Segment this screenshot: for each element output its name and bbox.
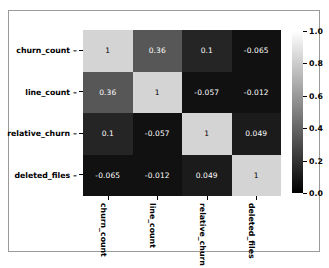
heatmap-cell-value: 0.36	[149, 47, 166, 55]
colorbar-tick	[303, 128, 307, 129]
y-axis-label-text: deleted_files	[14, 171, 70, 180]
y-axis-label-text: churn_count	[16, 46, 70, 55]
heatmap-cell-value: 0.1	[201, 47, 213, 55]
heatmap-cell: -0.057	[182, 72, 232, 114]
x-axis-label-slot-2: relative_churn	[182, 196, 232, 268]
colorbar-tick-label-0: 0.0	[309, 189, 323, 198]
x-axis-label-3: deleted_files	[247, 203, 256, 259]
x-axis-labels: churn_count line_count relative_churn de…	[83, 196, 281, 268]
heatmap-cell-value: -0.012	[244, 89, 269, 97]
heatmap-cell: -0.057	[133, 113, 183, 155]
colorbar-tick-label-5: 1.0	[309, 27, 323, 36]
figure-frame: churn_count– line_count– relative_churn–…	[8, 10, 320, 252]
correlation-heatmap: 1 0.36 0.1 -0.065 0.36 1 -0.057 -0.012 0…	[83, 30, 281, 196]
x-axis-label-0: churn_count	[99, 203, 108, 257]
y-axis-label-text: line_count	[25, 88, 70, 97]
heatmap-cell-value: 1	[155, 89, 160, 97]
heatmap-cell-value: 1	[204, 130, 209, 138]
heatmap-cell-value: -0.065	[244, 47, 269, 55]
heatmap-cell: 0.049	[232, 113, 282, 155]
y-axis-label-1: line_count–	[9, 72, 77, 114]
heatmap-cell-value: 1	[105, 47, 110, 55]
heatmap-cell: -0.012	[133, 155, 183, 197]
heatmap-cell-value: -0.057	[194, 89, 219, 97]
heatmap-cell: 0.1	[83, 113, 133, 155]
x-axis-tick	[256, 196, 257, 200]
heatmap-cell: -0.065	[232, 30, 282, 72]
colorbar-tick	[303, 96, 307, 97]
y-axis-label-3: deleted_files–	[9, 155, 77, 197]
heatmap-cell: 1	[83, 30, 133, 72]
colorbar-tick-label-1: 0.2	[309, 156, 323, 165]
heatmap-cell-value: 0.049	[245, 130, 267, 138]
heatmap-cell-value: 0.049	[196, 172, 218, 180]
heatmap-cell-value: 0.36	[99, 89, 116, 97]
colorbar: 0.0 0.2 0.4 0.6 0.8 1.0	[292, 31, 303, 193]
x-axis-label-2: relative_churn	[198, 203, 207, 266]
heatmap-cell: 0.1	[182, 30, 232, 72]
heatmap-cell: -0.065	[83, 155, 133, 197]
heatmap-cell: 0.049	[182, 155, 232, 197]
heatmap-cell-value: -0.057	[145, 130, 170, 138]
colorbar-tick	[303, 31, 307, 32]
colorbar-tick-label-4: 0.8	[309, 59, 323, 68]
heatmap-cell-value: 1	[254, 172, 259, 180]
x-axis-label-slot-3: deleted_files	[232, 196, 282, 268]
heatmap-cell: 1	[133, 72, 183, 114]
y-axis-label-0: churn_count–	[9, 30, 77, 72]
x-axis-tick	[108, 196, 109, 200]
x-axis-tick	[207, 196, 208, 200]
heatmap-cell: 0.36	[83, 72, 133, 114]
y-axis-label-text: relative_churn	[7, 129, 70, 138]
heatmap-cell: -0.012	[232, 72, 282, 114]
heatmap-cell: 1	[232, 155, 282, 197]
y-axis-labels: churn_count– line_count– relative_churn–…	[9, 30, 77, 196]
colorbar-tick	[303, 63, 307, 64]
colorbar-tick	[303, 193, 307, 194]
heatmap-cell: 1	[182, 113, 232, 155]
heatmap-cell-value: -0.065	[95, 172, 120, 180]
heatmap-cell-value: 0.1	[102, 130, 114, 138]
colorbar-tick-label-2: 0.4	[309, 124, 323, 133]
x-axis-label-slot-1: line_count	[133, 196, 183, 268]
heatmap-cell: 0.36	[133, 30, 183, 72]
colorbar-tick-label-3: 0.6	[309, 91, 323, 100]
heatmap-cell-value: -0.012	[145, 172, 170, 180]
colorbar-gradient	[292, 31, 303, 193]
colorbar-tick	[303, 161, 307, 162]
x-axis-label-slot-0: churn_count	[83, 196, 133, 268]
y-axis-label-2: relative_churn–	[9, 113, 77, 155]
x-axis-label-1: line_count	[148, 203, 157, 248]
x-axis-tick	[157, 196, 158, 200]
